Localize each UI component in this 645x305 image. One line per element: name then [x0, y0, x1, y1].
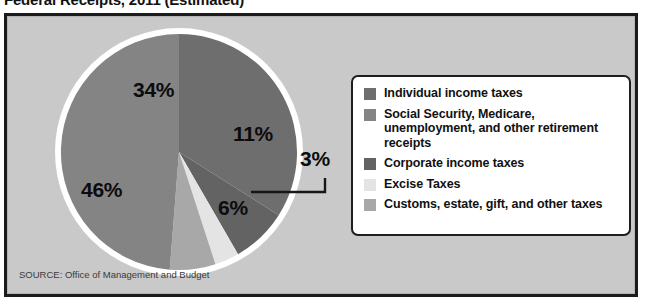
source-note: SOURCE: Office of Management and Budget	[19, 269, 209, 280]
pie-label-11-percent: 11%	[233, 122, 273, 146]
pie-label-46-percent: 46%	[81, 178, 122, 202]
legend-swatch-icon	[364, 109, 376, 121]
pie-svg	[33, 26, 325, 278]
legend-item-customs-estate-gift-other-taxes: Customs, estate, gift, and other taxes	[364, 197, 619, 212]
legend-swatch-icon	[364, 88, 376, 100]
legend-swatch-icon	[364, 158, 376, 170]
chart-frame: 34% 46% 11% 6% 3% Individual income taxe…	[4, 13, 638, 297]
pie-label-6-percent: 6%	[218, 196, 248, 220]
pie-slice-social-security-medicare	[61, 34, 179, 270]
legend-item-label: Individual income taxes	[384, 86, 523, 101]
legend-item-label: Social Security, Medicare, unemployment,…	[384, 107, 619, 151]
chart-screenshot: Federal Receipts, 2011 (Estimated)	[0, 0, 645, 305]
pie-label-34-percent: 34%	[133, 78, 174, 102]
pie-slice-group	[61, 34, 297, 270]
chart-legend: Individual income taxes Social Security,…	[351, 75, 631, 236]
legend-item-corporate-income-taxes: Corporate income taxes	[364, 156, 619, 171]
legend-item-excise-taxes: Excise Taxes	[364, 177, 619, 192]
legend-item-label: Customs, estate, gift, and other taxes	[384, 197, 602, 212]
legend-item-label: Corporate income taxes	[384, 156, 524, 171]
legend-swatch-icon	[364, 199, 376, 211]
legend-item-label: Excise Taxes	[384, 177, 460, 192]
pie-label-3-percent: 3%	[300, 147, 330, 171]
legend-swatch-icon	[364, 179, 376, 191]
legend-item-social-security-medicare: Social Security, Medicare, unemployment,…	[364, 107, 619, 151]
legend-item-individual-income-taxes: Individual income taxes	[364, 86, 619, 101]
page-title: Federal Receipts, 2011 (Estimated)	[4, 0, 424, 11]
pie-chart: 34% 46% 11% 6%	[33, 26, 325, 278]
callout-leader-line	[251, 177, 330, 194]
